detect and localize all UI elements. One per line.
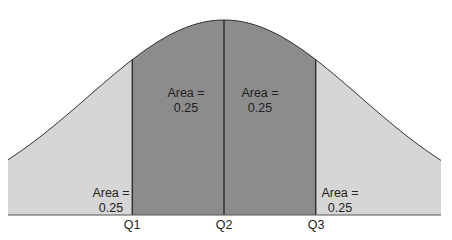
area-label-q2-q3: Area = (241, 86, 278, 100)
area-value-q1-q2: 0.25 (174, 101, 198, 115)
area-value-q2-q3: 0.25 (248, 101, 272, 115)
area-label-tail-left: Area = (92, 186, 129, 200)
q1-tick-label: Q1 (124, 218, 141, 232)
area-value-tail-left: 0.25 (99, 201, 123, 215)
normal-distribution-chart: Area = 0.25 Area = 0.25 Area = 0.25 Area… (0, 0, 452, 240)
area-label-q1-q2: Area = (167, 86, 204, 100)
q2-tick-label: Q2 (216, 218, 233, 232)
area-value-tail-right: 0.25 (328, 201, 352, 215)
q3-tick-label: Q3 (308, 218, 325, 232)
area-label-tail-right: Area = (321, 186, 358, 200)
